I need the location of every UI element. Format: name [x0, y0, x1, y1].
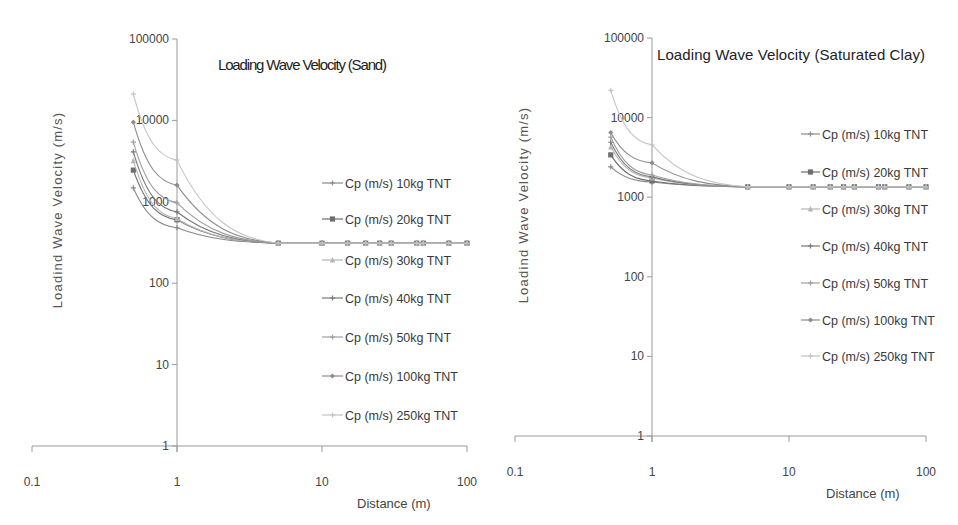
data-point: [131, 168, 136, 173]
y-tick-label: 100000: [604, 31, 644, 45]
sand-velocity-chart: Loading Wave Velocity (Sand) Loadind Wav…: [24, 32, 478, 511]
y-tick-label: 1: [162, 439, 169, 453]
chart-title: Loading Wave Velocity (Saturated Clay): [657, 46, 925, 63]
data-point: [608, 88, 613, 93]
legend-marker-icon: [330, 412, 335, 417]
legend-label: Cp (m/s) 100kg TNT: [345, 370, 458, 384]
chart-figure: Loading Wave Velocity (Sand) Loadind Wav…: [0, 0, 958, 525]
x-tick-label: 1: [174, 475, 181, 489]
legend-label: Cp (m/s) 10kg TNT: [345, 177, 451, 191]
series-line: [133, 142, 467, 243]
legend-label: Cp (m/s) 250kg TNT: [345, 409, 458, 423]
legend-label: Cp (m/s) 20kg TNT: [345, 213, 451, 227]
data-point: [174, 225, 179, 230]
data-point: [131, 185, 136, 190]
legend-item: Cp (m/s) 10kg TNT: [801, 128, 928, 142]
legend-item: Cp (m/s) 20kg TNT: [322, 213, 451, 227]
legend-marker-icon: [330, 180, 335, 185]
y-tick-label: 100000: [129, 32, 169, 46]
legend-label: Cp (m/s) 40kg TNT: [822, 240, 928, 254]
y-tick-label: 10000: [136, 113, 170, 127]
series-3: [131, 158, 470, 246]
legend-item: Cp (m/s) 100kg TNT: [322, 370, 458, 384]
legend-label: Cp (m/s) 50kg TNT: [822, 277, 928, 291]
legend-marker-icon: [808, 353, 813, 358]
legend-marker-icon: [808, 169, 813, 174]
axes: 0.1110100110100100010000100000: [507, 31, 937, 479]
data-point: [131, 140, 136, 145]
legend-label: Cp (m/s) 50kg TNT: [345, 331, 451, 345]
legend-label: Cp (m/s) 30kg TNT: [345, 254, 451, 268]
x-tick-label: 100: [916, 465, 936, 479]
legend-item: Cp (m/s) 30kg TNT: [322, 254, 451, 268]
data-point: [174, 158, 179, 163]
legend-item: Cp (m/s) 250kg TNT: [322, 409, 458, 423]
legend-item: Cp (m/s) 50kg TNT: [322, 331, 451, 345]
legend-label: Cp (m/s) 30kg TNT: [822, 203, 928, 217]
legend-label: Cp (m/s) 10kg TNT: [822, 128, 928, 142]
x-tick-label: 10: [782, 465, 796, 479]
y-tick-label: 100: [149, 276, 169, 290]
legend-marker-icon: [330, 334, 335, 339]
y-axis-label: Loadind Wave Velocity (m/s): [50, 112, 65, 309]
legend: Cp (m/s) 10kg TNTCp (m/s) 20kg TNTCp (m/…: [322, 177, 458, 423]
x-tick-label: 100: [457, 475, 477, 489]
legend-item: Cp (m/s) 20kg TNT: [801, 166, 928, 180]
x-tick-label: 1: [649, 465, 656, 479]
legend-label: Cp (m/s) 250kg TNT: [822, 350, 935, 364]
series-4: [131, 149, 470, 245]
legend-marker-icon: [808, 280, 813, 285]
x-tick-label: 0.1: [24, 475, 41, 489]
legend-marker-icon: [330, 373, 335, 378]
legend-label: Cp (m/s) 40kg TNT: [345, 292, 451, 306]
legend-item: Cp (m/s) 250kg TNT: [801, 350, 935, 364]
y-tick-label: 1000: [617, 190, 644, 204]
y-tick-label: 100: [624, 270, 644, 284]
x-tick-label: 0.1: [507, 465, 524, 479]
legend-item: Cp (m/s) 50kg TNT: [801, 277, 928, 291]
y-tick-label: 1: [637, 429, 644, 443]
legend-label: Cp (m/s) 100kg TNT: [822, 314, 935, 328]
x-tick-label: 10: [315, 475, 329, 489]
data-point: [608, 130, 613, 135]
data-point: [608, 152, 613, 157]
y-axis-label: Loadind Wave Velocity (m/s): [516, 107, 531, 304]
x-axis-label: Distance (m): [357, 496, 431, 511]
legend-marker-icon: [330, 295, 335, 300]
legend-item: Cp (m/s) 10kg TNT: [322, 177, 451, 191]
legend-marker-icon: [808, 131, 813, 136]
data-point: [131, 92, 136, 97]
legend-item: Cp (m/s) 40kg TNT: [801, 240, 928, 254]
legend: Cp (m/s) 10kg TNTCp (m/s) 20kg TNTCp (m/…: [801, 128, 935, 364]
legend-marker-icon: [808, 317, 813, 322]
y-tick-label: 10: [156, 358, 170, 372]
x-axis-label: Distance (m): [826, 486, 900, 501]
chart-title: Loading Wave Velocity (Sand): [218, 56, 387, 73]
legend-marker-icon: [330, 216, 335, 221]
legend-marker-icon: [808, 243, 813, 248]
saturated-clay-velocity-chart: Loading Wave Velocity (Saturated Clay) L…: [507, 31, 937, 501]
data-point: [649, 160, 654, 165]
legend-label: Cp (m/s) 20kg TNT: [822, 166, 928, 180]
legend-item: Cp (m/s) 40kg TNT: [322, 292, 451, 306]
y-tick-label: 10: [631, 349, 645, 363]
legend-item: Cp (m/s) 100kg TNT: [801, 314, 935, 328]
y-tick-label: 10000: [611, 111, 645, 125]
legend-item: Cp (m/s) 30kg TNT: [801, 203, 928, 217]
